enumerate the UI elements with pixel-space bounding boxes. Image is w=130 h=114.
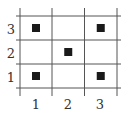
y-label-3: 3 [7, 23, 15, 36]
filled-square-marker [64, 48, 72, 56]
filled-square-marker [32, 72, 40, 80]
cell-markers [32, 24, 105, 80]
x-label-2: 2 [64, 98, 72, 111]
filled-square-marker [97, 72, 105, 80]
filled-square-marker [32, 24, 40, 32]
x-label-3: 3 [96, 98, 104, 111]
x-label-1: 1 [32, 98, 40, 111]
y-label-2: 2 [7, 47, 15, 60]
filled-square-marker [97, 24, 105, 32]
y-label-1: 1 [7, 71, 15, 84]
